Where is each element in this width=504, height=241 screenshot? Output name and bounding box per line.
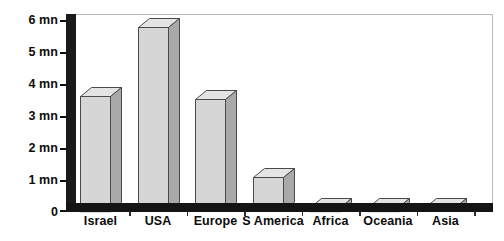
y-tick-label-1: 1 mn [2, 174, 58, 186]
axis-wall [66, 14, 76, 211]
bar-3d-shape [195, 90, 238, 213]
chart-floor-bevel [483, 203, 493, 212]
y-tick-label-2: 2 mn [2, 142, 58, 154]
bar-3d-shape [138, 18, 181, 213]
bar-3d-shape [80, 87, 123, 213]
x-axis: IsraelUSAEuropeS AmericaAfricaOceaniaAsi… [0, 214, 504, 236]
bar-europe [195, 90, 236, 211]
x-tick-label-asia: Asia [411, 214, 480, 228]
bar-israel [80, 87, 121, 211]
axis-wall-bevel [66, 9, 76, 14]
y-tick-label-3: 3 mn [2, 110, 58, 122]
y-tick-label-5: 5 mn [2, 46, 58, 58]
bar-usa [138, 18, 179, 211]
bar-chart: 6 mn 5 mn 4 mn 3 mn 2 mn 1 mn 0 IsraelUS… [0, 0, 504, 241]
y-tick-label-6: 6 mn [2, 14, 58, 26]
y-tick-label-4: 4 mn [2, 78, 58, 90]
